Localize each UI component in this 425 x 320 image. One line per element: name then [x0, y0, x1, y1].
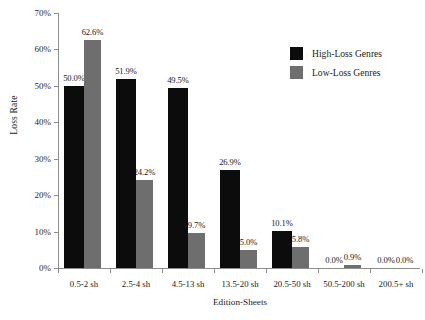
- x-axis-title: Edition-Sheets: [213, 297, 267, 307]
- legend-item-low-loss[interactable]: Low-Loss Genres: [290, 63, 382, 82]
- y-tick-label: 60%: [17, 44, 51, 54]
- x-tick-label: 20.5-50 sh: [273, 279, 310, 289]
- x-tick-mark: [110, 269, 111, 273]
- bar-group: [214, 13, 266, 268]
- x-tick-mark: [422, 269, 423, 273]
- y-tick-label: 40%: [17, 117, 51, 127]
- x-tick-label: 200.5+ sh: [379, 279, 414, 289]
- legend-label-high-loss: High-Loss Genres: [312, 48, 382, 59]
- legend-label-low-loss: Low-Loss Genres: [312, 67, 380, 78]
- y-tick-label: 0%: [17, 263, 51, 273]
- x-tick-label: 0.5-2 sh: [70, 279, 98, 289]
- bar-high-loss[interactable]: [272, 231, 292, 268]
- bar-high-loss[interactable]: [220, 170, 240, 268]
- x-tick-mark: [58, 269, 59, 273]
- bar-high-loss[interactable]: [116, 79, 136, 268]
- x-tick-mark: [214, 269, 215, 273]
- bar-high-loss[interactable]: [64, 86, 84, 268]
- bar-group: [162, 13, 214, 268]
- x-tick-mark: [266, 269, 267, 273]
- x-tick-mark: [370, 269, 371, 273]
- legend-swatch-icon-low-loss: [290, 66, 303, 79]
- x-tick-label: 2.5-4 sh: [122, 279, 150, 289]
- bar-chart: Loss Rate 0%10%20%30%40%50%60%70% 50.0%6…: [0, 0, 425, 320]
- chart-legend: High-Loss Genres Low-Loss Genres: [290, 44, 382, 82]
- bar-low-loss[interactable]: [292, 247, 309, 268]
- y-tick-label: 10%: [17, 227, 51, 237]
- bar-low-loss[interactable]: [136, 180, 153, 268]
- bar-low-loss[interactable]: [344, 265, 361, 268]
- legend-item-high-loss[interactable]: High-Loss Genres: [290, 44, 382, 63]
- x-axis-line: [58, 268, 420, 269]
- x-tick-label: 4.5-13 sh: [172, 279, 205, 289]
- y-tick-label: 70%: [17, 8, 51, 18]
- bar-group: [110, 13, 162, 268]
- bar-low-loss[interactable]: [240, 250, 257, 268]
- x-tick-label: 50.5-200 sh: [323, 279, 365, 289]
- y-tick-label: 30%: [17, 154, 51, 164]
- x-tick-mark: [318, 269, 319, 273]
- bar-low-loss[interactable]: [84, 40, 101, 268]
- bar-group: [58, 13, 110, 268]
- bar-low-loss[interactable]: [188, 233, 205, 268]
- y-tick-label: 50%: [17, 81, 51, 91]
- bar-high-loss[interactable]: [168, 88, 188, 268]
- x-tick-label: 13.5-20 sh: [221, 279, 258, 289]
- y-tick-label: 20%: [17, 190, 51, 200]
- x-tick-mark: [162, 269, 163, 273]
- legend-swatch-icon-high-loss: [290, 47, 303, 60]
